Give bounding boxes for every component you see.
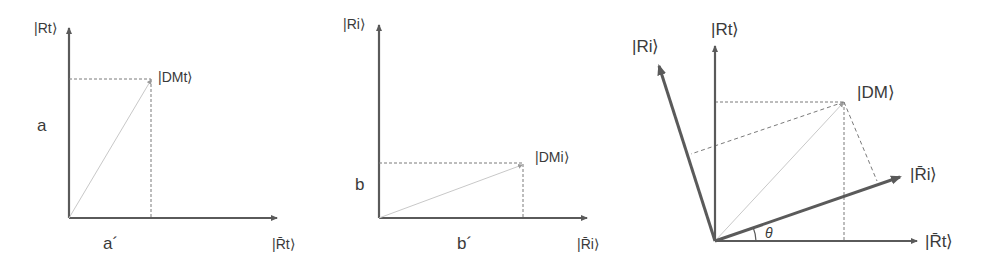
axis-ri-bar	[715, 177, 900, 241]
vector-dmt	[69, 80, 151, 218]
x-component-label: b´	[457, 234, 472, 253]
theta-arc	[753, 227, 756, 241]
vector-label: |DMt⟩	[158, 69, 192, 85]
x-component-label: a´	[103, 234, 118, 253]
vector-label: |DMi⟩	[535, 149, 569, 165]
rt-bar-axis-label: |R̄t⟩	[925, 232, 953, 251]
panel-1: |Rt⟩ |DMt⟩ a a´ |R̄t⟩	[34, 20, 295, 253]
y-axis-label: |Rt⟩	[34, 20, 57, 36]
theta-label: θ	[765, 225, 773, 241]
axis-ri	[659, 66, 715, 241]
vector-dmi	[379, 165, 522, 218]
diagram-canvas: |Rt⟩ |DMt⟩ a a´ |R̄t⟩ |Ri⟩ |DMi⟩ b b´ |R…	[0, 0, 990, 269]
panel-2: |Ri⟩ |DMi⟩ b b´ |R̄i⟩	[343, 16, 599, 253]
ri-bar-axis-label: |R̄i⟩	[910, 165, 937, 184]
panel-3: |Rt⟩ |Ri⟩ |DM⟩ |R̄i⟩ |R̄t⟩ θ	[632, 20, 953, 251]
y-component-label: a	[37, 116, 47, 135]
y-axis-label: |Ri⟩	[343, 16, 365, 32]
x-axis-label: |R̄t⟩	[272, 236, 295, 252]
ri-axis-label: |Ri⟩	[632, 37, 659, 56]
y-component-label: b	[355, 175, 364, 194]
rt-axis-label: |Rt⟩	[711, 20, 739, 39]
dashed-to-ri-bar-axis	[844, 102, 877, 181]
vector-label: |DM⟩	[857, 83, 895, 102]
x-axis-label: |R̄i⟩	[577, 236, 599, 252]
